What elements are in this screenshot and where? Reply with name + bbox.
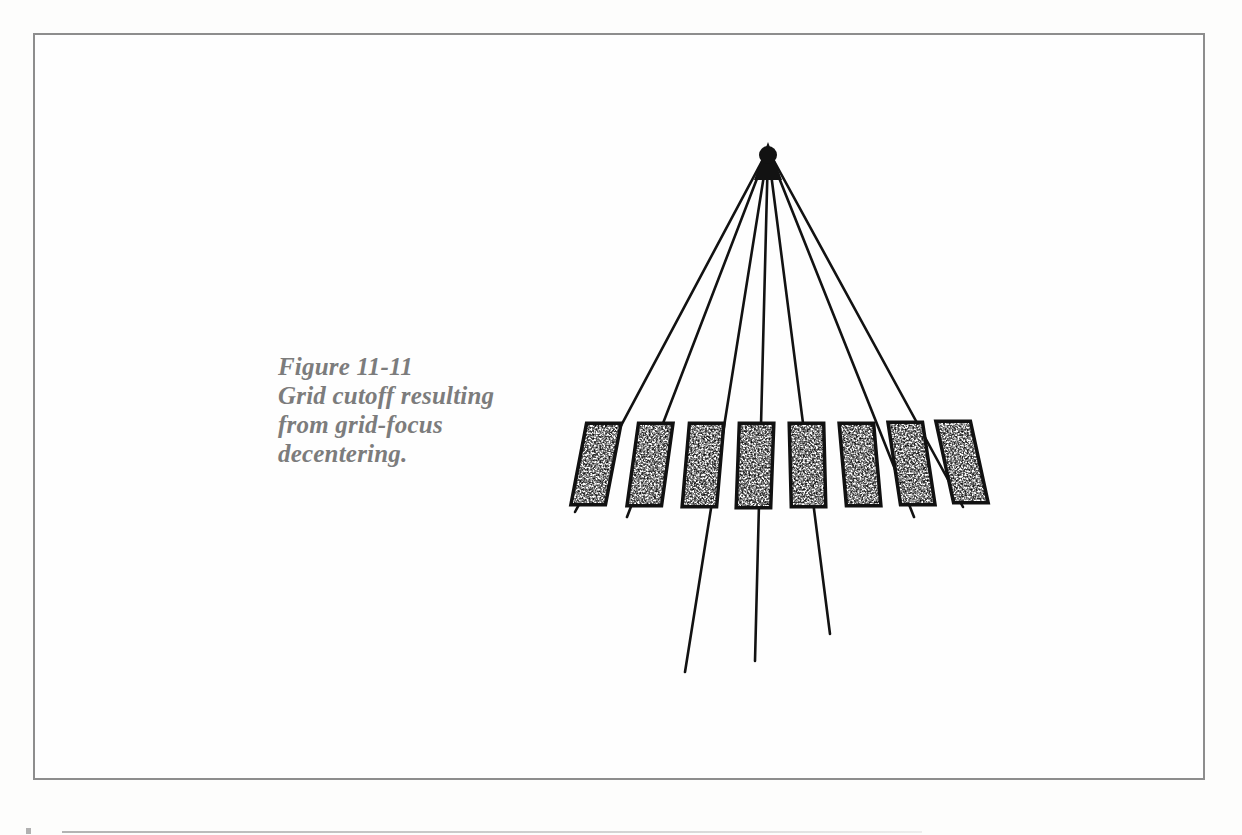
figure-border — [33, 33, 1205, 780]
caption-line-2: Grid cutoff resulting — [278, 381, 598, 410]
figure-page: Figure 11-11 Grid cutoff resulting from … — [0, 0, 1242, 835]
figure-caption: Figure 11-11 Grid cutoff resulting from … — [278, 352, 598, 468]
caption-line-4: decentering. — [278, 439, 598, 468]
caption-line-1: Figure 11-11 — [278, 352, 598, 381]
caption-line-3: from grid-focus — [278, 410, 598, 439]
page-edge-rule — [62, 831, 922, 833]
page-edge-tick — [26, 828, 31, 834]
